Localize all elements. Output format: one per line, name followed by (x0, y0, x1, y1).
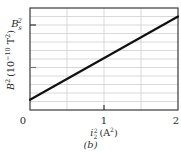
x-axis-label: i22(A2) (90, 126, 117, 140)
x-tick-label-0: 0 (20, 115, 26, 126)
x-tick-label-1: 1 (101, 115, 107, 126)
chart: Bs2 B2(10−10 T2) 0 1 2 i22(A2) (b) (0, 0, 181, 156)
bs-annotation: Bs2 (10, 17, 22, 32)
panel-label: (b) (0, 139, 181, 150)
y-axis-label: B2(10−10 T2) (4, 30, 16, 91)
plot-area: Bs2 B2(10−10 T2) 0 1 2 i22(A2) (0, 0, 181, 156)
x-tick-label-2: 2 (173, 115, 179, 126)
